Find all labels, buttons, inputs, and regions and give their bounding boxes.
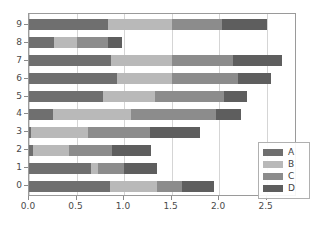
bar-segment-d-6 bbox=[238, 73, 271, 84]
legend-entry-b[interactable]: B bbox=[263, 159, 305, 170]
y-tick-label-1: 1 bbox=[16, 162, 22, 172]
x-tick-label-4: 2.0 bbox=[211, 201, 225, 211]
y-tick-mark-0 bbox=[24, 185, 28, 186]
bar-segment-c-0 bbox=[157, 181, 182, 192]
x-tick-mark-4 bbox=[218, 196, 219, 200]
bar-segment-c-7 bbox=[172, 55, 234, 66]
legend-swatch-d bbox=[263, 185, 283, 192]
bar-segment-a-0 bbox=[29, 181, 110, 192]
bar-segment-d-4 bbox=[216, 109, 241, 120]
legend-label-c: C bbox=[288, 172, 294, 181]
y-tick-label-6: 6 bbox=[16, 73, 22, 83]
bar-row bbox=[29, 145, 297, 156]
y-tick-mark-6 bbox=[24, 78, 28, 79]
bar-segment-d-2 bbox=[112, 145, 151, 156]
bar-row bbox=[29, 163, 297, 174]
bar-segment-b-8 bbox=[54, 37, 77, 48]
legend-entry-d[interactable]: D bbox=[263, 183, 305, 194]
y-tick-label-4: 4 bbox=[16, 108, 22, 118]
x-tick-label-1: 0.5 bbox=[68, 201, 82, 211]
y-tick-mark-3 bbox=[24, 131, 28, 132]
bar-segment-d-1 bbox=[124, 163, 157, 174]
bar-segment-c-4 bbox=[131, 109, 217, 120]
y-tick-label-9: 9 bbox=[16, 19, 22, 29]
x-tick-mark-2 bbox=[123, 196, 124, 200]
bar-segment-a-6 bbox=[29, 73, 117, 84]
legend-swatch-b bbox=[263, 161, 283, 168]
bar-segment-d-7 bbox=[233, 55, 281, 66]
bar-segment-c-6 bbox=[172, 73, 239, 84]
bar-segment-b-6 bbox=[117, 73, 171, 84]
y-tick-mark-5 bbox=[24, 96, 28, 97]
x-tick-mark-1 bbox=[76, 196, 77, 200]
bar-segment-b-5 bbox=[103, 91, 155, 102]
bar-row bbox=[29, 127, 297, 138]
chart-legend[interactable]: ABCD bbox=[258, 142, 310, 199]
x-tick-mark-0 bbox=[28, 196, 29, 200]
bar-row bbox=[29, 55, 297, 66]
bar-segment-b-0 bbox=[110, 181, 158, 192]
bar-row bbox=[29, 109, 297, 120]
legend-label-b: B bbox=[288, 160, 294, 169]
bar-segment-c-8 bbox=[77, 37, 108, 48]
x-tick-label-3: 1.5 bbox=[163, 201, 177, 211]
bar-segment-c-1 bbox=[98, 163, 124, 174]
bar-segment-a-4 bbox=[29, 109, 53, 120]
bar-segment-a-1 bbox=[29, 163, 91, 174]
bar-row bbox=[29, 181, 297, 192]
bar-segment-b-9 bbox=[108, 19, 172, 30]
bar-segment-d-5 bbox=[224, 91, 247, 102]
legend-entry-c[interactable]: C bbox=[263, 171, 305, 182]
legend-label-d: D bbox=[288, 184, 295, 193]
bar-row bbox=[29, 91, 297, 102]
bar-segment-a-9 bbox=[29, 19, 108, 30]
bar-segment-b-4 bbox=[53, 109, 131, 120]
legend-swatch-a bbox=[263, 149, 283, 156]
chart-figure: 0.00.51.01.52.02.5 0123456789 ABCD bbox=[0, 0, 326, 230]
y-tick-label-7: 7 bbox=[16, 55, 22, 65]
y-tick-mark-7 bbox=[24, 60, 28, 61]
bars-layer bbox=[29, 14, 295, 195]
y-tick-mark-4 bbox=[24, 113, 28, 114]
legend-label-a: A bbox=[288, 148, 294, 157]
bar-row bbox=[29, 19, 297, 30]
bar-segment-a-8 bbox=[29, 37, 54, 48]
bar-segment-c-5 bbox=[155, 91, 223, 102]
y-tick-label-3: 3 bbox=[16, 126, 22, 136]
bar-row bbox=[29, 37, 297, 48]
legend-entry-a[interactable]: A bbox=[263, 147, 305, 158]
bar-segment-c-2 bbox=[69, 145, 112, 156]
bar-segment-b-7 bbox=[111, 55, 172, 66]
y-tick-mark-2 bbox=[24, 149, 28, 150]
bar-segment-d-8 bbox=[108, 37, 122, 48]
x-tick-label-5: 2.5 bbox=[258, 201, 272, 211]
bar-row bbox=[29, 73, 297, 84]
bar-segment-d-9 bbox=[222, 19, 267, 30]
bar-segment-a-5 bbox=[29, 91, 103, 102]
x-tick-label-0: 0.0 bbox=[21, 201, 35, 211]
y-tick-label-5: 5 bbox=[16, 91, 22, 101]
plot-area bbox=[28, 13, 296, 196]
bar-segment-d-3 bbox=[150, 127, 200, 138]
bar-segment-b-2 bbox=[33, 145, 69, 156]
bar-segment-d-0 bbox=[182, 181, 214, 192]
y-tick-mark-8 bbox=[24, 42, 28, 43]
y-tick-label-0: 0 bbox=[16, 180, 22, 190]
legend-swatch-c bbox=[263, 173, 283, 180]
bar-segment-b-1 bbox=[91, 163, 99, 174]
bar-segment-b-3 bbox=[31, 127, 88, 138]
bar-segment-a-7 bbox=[29, 55, 111, 66]
y-tick-mark-1 bbox=[24, 167, 28, 168]
x-tick-label-2: 1.0 bbox=[116, 201, 130, 211]
bar-segment-c-3 bbox=[88, 127, 150, 138]
y-tick-mark-9 bbox=[24, 24, 28, 25]
x-tick-mark-3 bbox=[171, 196, 172, 200]
bar-segment-c-9 bbox=[172, 19, 222, 30]
y-tick-label-8: 8 bbox=[16, 37, 22, 47]
y-tick-label-2: 2 bbox=[16, 144, 22, 154]
